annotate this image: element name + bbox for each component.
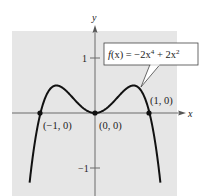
point-label-neg1-0: (−1, 0) (43, 120, 72, 132)
point-label-1-0: (1, 0) (150, 95, 173, 107)
y-tick-label-neg1: −1 (78, 163, 89, 174)
point-neg1-0 (37, 110, 42, 115)
point-0-0 (92, 110, 97, 115)
function-label: f(x) = −2x4 + 2x2 (108, 48, 180, 61)
y-axis-label: y (91, 12, 97, 23)
function-graph: x y 1 −1 (−1, 0) (0, 0) (1, 0) f(x) = −2… (0, 0, 206, 196)
point-label-0-0: (0, 0) (99, 120, 122, 132)
y-tick-label-1: 1 (82, 53, 87, 64)
point-1-0 (146, 110, 151, 115)
x-axis-label: x (187, 108, 193, 119)
